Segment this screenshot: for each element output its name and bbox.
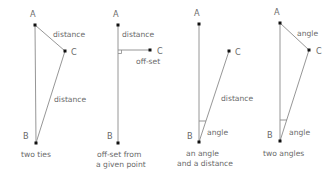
label-b: B — [23, 131, 29, 141]
label-offset: off-set — [136, 57, 160, 66]
label-b: B — [267, 130, 273, 140]
label-c: C — [157, 46, 163, 56]
diagram-two-ties: A C B distance distance two ties — [21, 9, 87, 159]
caption-line-1: two ties — [21, 150, 51, 159]
label-angle-a: angle — [297, 29, 318, 38]
caption-line-2: a given point — [96, 160, 146, 169]
point-c — [149, 49, 152, 52]
right-angle-marker-icon — [118, 50, 122, 54]
label-a: A — [113, 9, 119, 19]
point-c — [64, 50, 67, 53]
label-distance: distance — [221, 94, 254, 103]
label-a: A — [30, 9, 36, 19]
point-c — [228, 50, 231, 53]
diagram-offset: A C B distance off-set off-set from a gi… — [96, 9, 163, 169]
label-angle: angle — [207, 128, 228, 137]
label-c: C — [235, 47, 241, 57]
label-b: B — [187, 131, 193, 141]
point-a — [198, 23, 201, 26]
point-b — [279, 140, 282, 143]
label-distance-ac: distance — [53, 30, 86, 39]
label-a: A — [194, 8, 200, 18]
label-distance: distance — [122, 30, 155, 39]
point-a — [279, 22, 282, 25]
line-ab — [35, 25, 36, 143]
diagram-angle-and-distance: A C B distance angle an angle and a dist… — [177, 8, 254, 168]
label-distance-bc: distance — [54, 95, 87, 104]
caption-line-1: an angle — [186, 149, 219, 158]
label-angle-b: angle — [289, 128, 310, 137]
label-b: B — [107, 131, 113, 141]
caption-line-2: and a distance — [177, 159, 233, 168]
caption-line-1: two angles — [263, 149, 304, 158]
label-c: C — [71, 47, 77, 57]
point-b — [117, 142, 120, 145]
caption-line-1: off-set from — [97, 150, 141, 159]
point-b — [35, 142, 38, 145]
point-a — [117, 24, 120, 27]
diagram-two-angles: A C B angle angle two angles — [263, 7, 322, 158]
label-c: C — [316, 46, 322, 56]
point-a — [34, 24, 37, 27]
label-a: A — [274, 7, 280, 17]
point-b — [198, 141, 201, 144]
surveying-methods-diagram: A C B distance distance two ties A C B d… — [0, 0, 335, 178]
point-c — [308, 49, 311, 52]
